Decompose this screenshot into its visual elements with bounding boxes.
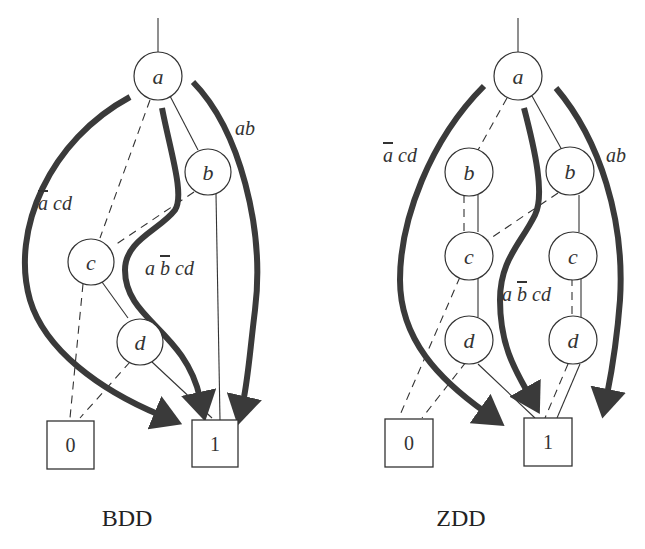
- svg-text:c: c: [464, 244, 474, 269]
- svg-text:d: d: [568, 328, 580, 353]
- zdd-terminal-0: 0: [385, 419, 433, 467]
- zdd-node-c-right: c: [549, 232, 597, 280]
- zdd-diagram: a cd a b cd ab a b b c c: [383, 18, 626, 531]
- zdd-edge-d2-1-high: [557, 364, 580, 418]
- zdd-path-label-a-not-b-cd: a b cd: [502, 283, 552, 305]
- svg-text:c: c: [86, 250, 96, 275]
- bdd-edge-a-c-low: [100, 100, 150, 238]
- svg-text:d: d: [135, 330, 147, 355]
- bdd-edge-a-b-high: [170, 96, 198, 150]
- zdd-path-arrow-a-not-b-cd: [500, 108, 539, 393]
- svg-text:0: 0: [404, 432, 414, 454]
- bdd-terminal-0: 0: [47, 421, 94, 469]
- zdd-node-b-left: b: [445, 148, 493, 196]
- svg-text:0: 0: [66, 434, 76, 456]
- svg-text:a: a: [513, 64, 524, 89]
- bdd-diagram: a cd a b cd ab a b c d 0: [25, 18, 257, 531]
- overbar-variable: a: [38, 192, 48, 214]
- zdd-node-d-left: d: [445, 316, 493, 364]
- zdd-node-b-right: b: [546, 147, 594, 195]
- bdd-node-a: a: [134, 52, 182, 100]
- bdd-node-c: c: [68, 239, 114, 285]
- zdd-terminal-1: 1: [524, 418, 572, 466]
- svg-text:b: b: [464, 160, 475, 185]
- bdd-path-label-a-not-b-cd: a b cd: [145, 257, 195, 279]
- bdd-edge-c-d-high: [102, 282, 128, 318]
- svg-text:b: b: [565, 159, 576, 184]
- bdd-terminal-1: 1: [192, 420, 238, 467]
- bdd-zdd-comparison-diagram: a cd a b cd ab a b c d 0: [0, 0, 645, 549]
- zdd-caption: ZDD: [436, 505, 485, 531]
- overbar-variable: b: [160, 257, 170, 279]
- overbar-variable: b: [517, 283, 527, 305]
- bdd-path-label-ab: ab: [235, 117, 255, 139]
- zdd-path-label-ab: ab: [606, 144, 626, 166]
- bdd-edge-b-1-high: [216, 194, 220, 420]
- bdd-edge-c-0-low: [70, 284, 83, 418]
- bdd-caption: BDD: [102, 505, 153, 531]
- bdd-edge-b-c-low: [115, 192, 194, 245]
- svg-text:d: d: [464, 328, 476, 353]
- bdd-path-label-not-a-cd: a cd: [38, 192, 73, 214]
- zdd-edge-a-b2-high: [532, 96, 562, 150]
- svg-text:a: a: [153, 64, 164, 89]
- overbar-variable: a: [383, 144, 393, 166]
- bdd-node-b: b: [185, 149, 231, 195]
- zdd-node-d-right: d: [549, 316, 597, 364]
- zdd-edge-d2-1-low: [545, 364, 568, 418]
- svg-text:1: 1: [543, 431, 553, 453]
- svg-text:c: c: [568, 244, 578, 269]
- zdd-path-label-not-a-cd: a cd: [383, 144, 418, 166]
- svg-text:b: b: [203, 160, 214, 185]
- bdd-edge-d-1-high: [152, 362, 212, 418]
- zdd-node-a: a: [494, 52, 542, 100]
- bdd-node-d: d: [117, 319, 163, 365]
- zdd-edge-a-b1-low: [478, 98, 507, 150]
- zdd-node-c-left: c: [445, 232, 493, 280]
- svg-text:1: 1: [210, 433, 220, 455]
